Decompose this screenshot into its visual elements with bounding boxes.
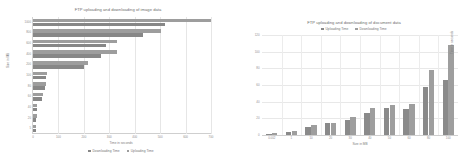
right-plot-area: 0204060801001200.002110203040506080100 (262, 35, 458, 136)
x-tick-label: 30 (349, 137, 352, 140)
legend-label: Downloading Time (359, 27, 386, 31)
right-x-axis-label: Size in MB (262, 142, 458, 146)
left-y-axis-label: Size in MB (6, 53, 10, 68)
legend-label: Uploading Time (131, 149, 154, 153)
y-tick-label: 80 (256, 67, 259, 70)
y-tick-label: 200 (26, 63, 31, 66)
left-x-axis-label: Time in seconds (32, 141, 210, 145)
bar-downloading (448, 45, 453, 135)
document-data-chart: FTP uploading and downloading of documen… (236, 0, 472, 163)
bar-uploading (33, 19, 211, 23)
y-tick-label: 100 (255, 50, 260, 53)
legend-label: Uploading Time (325, 27, 348, 31)
legend-item: Uploading Time (127, 149, 154, 153)
y-tick-label: 60 (256, 84, 259, 87)
y-tick-label: 800 (26, 31, 31, 34)
bar-uploading (325, 123, 330, 135)
y-tick-label: 40 (256, 100, 259, 103)
right-legend: Uploading TimeDownloading Time (236, 27, 472, 31)
bar-uploading (423, 87, 428, 135)
x-tick-label: 0 (32, 136, 34, 139)
bar-group: 20 (321, 35, 341, 135)
bar-group: 60 (399, 35, 419, 135)
x-tick-label: 300 (107, 136, 112, 139)
bar-uploading (33, 61, 88, 65)
bar-uploading (33, 93, 43, 97)
y-tick-label: 0 (258, 134, 260, 137)
bar-group: 40 (360, 35, 380, 135)
y-tick-label: 400 (26, 53, 31, 56)
bar-uploading (266, 134, 271, 135)
x-tick-label: 500 (158, 136, 163, 139)
legend-swatch-icon (321, 28, 324, 31)
bar-group: 80 (419, 35, 439, 135)
bar-uploading (443, 80, 448, 135)
bar-downloading (33, 23, 165, 27)
bar-group: 30 (340, 35, 360, 135)
bar-uploading (384, 108, 389, 135)
x-tick-label: 100 (446, 137, 451, 140)
x-tick-label: 1 (291, 137, 293, 140)
x-tick-label: 60 (407, 137, 410, 140)
bar-downloading (292, 131, 297, 135)
x-tick-label: 20 (329, 137, 332, 140)
y-tick-label: 20 (28, 117, 31, 120)
y-tick-label: 100 (26, 74, 31, 77)
x-tick-label: 40 (368, 137, 371, 140)
bar-downloading (33, 118, 36, 122)
bar-uploading (286, 132, 291, 135)
bar-uploading (33, 72, 47, 76)
x-tick-label: 400 (132, 136, 137, 139)
gridline (211, 17, 212, 134)
bar-group: 100 (33, 70, 211, 81)
bar-downloading (350, 117, 355, 135)
bar-group: 600 (33, 38, 211, 49)
y-tick-label: 1000 (25, 21, 31, 24)
bar-uploading (33, 40, 117, 44)
bar-downloading (370, 108, 375, 136)
bar-downloading (33, 54, 101, 58)
bar-uploading (33, 125, 36, 129)
legend-item: Downloading Time (88, 149, 119, 153)
dual-chart-figure: FTP uploading and downloading of image d… (0, 0, 472, 163)
y-tick-label: 80 (28, 85, 31, 88)
y-tick-label: 5 (29, 127, 31, 130)
bar-group: 100 (438, 35, 458, 135)
right-chart-title: FTP uploading and downloading of documen… (236, 20, 472, 25)
bar-group: 0.002 (262, 35, 282, 135)
left-plot-area: 0100200300400500600700100080060040020010… (32, 17, 211, 134)
bar-uploading (33, 29, 161, 33)
legend-swatch-icon (355, 28, 358, 31)
left-legend: Downloading TimeUploading Time (32, 149, 210, 153)
bar-uploading (403, 109, 408, 135)
x-tick-label: 80 (427, 137, 430, 140)
bar-uploading (345, 120, 350, 135)
y-tick-label: 40 (28, 106, 31, 109)
y-tick-label: 20 (256, 117, 259, 120)
bar-group: 400 (33, 49, 211, 60)
bar-group: 1 (282, 35, 302, 135)
bar-uploading (33, 50, 117, 54)
bar-group: 800 (33, 28, 211, 39)
legend-swatch-icon (127, 150, 130, 153)
bar-downloading (33, 44, 106, 48)
legend-item: Uploading Time (321, 27, 348, 31)
bar-uploading (33, 104, 37, 108)
bar-downloading (33, 76, 46, 80)
bar-group: 40 (33, 102, 211, 113)
x-tick-label: 10 (309, 137, 312, 140)
x-tick-label: 700 (209, 136, 214, 139)
y-tick-label: 120 (255, 34, 260, 37)
right-y-axis-label: Time in seconds (450, 31, 454, 54)
bar-group: 200 (33, 60, 211, 71)
bar-group: 5 (33, 123, 211, 134)
bar-downloading (311, 125, 316, 135)
bar-downloading (33, 86, 45, 90)
bar-downloading (429, 70, 434, 135)
x-tick-label: 200 (81, 136, 86, 139)
image-data-chart: FTP uploading and downloading of image d… (0, 0, 236, 163)
legend-item: Downloading Time (355, 27, 386, 31)
bar-downloading (409, 104, 414, 135)
bar-group: 1000 (33, 17, 211, 28)
bar-group: 80 (33, 81, 211, 92)
